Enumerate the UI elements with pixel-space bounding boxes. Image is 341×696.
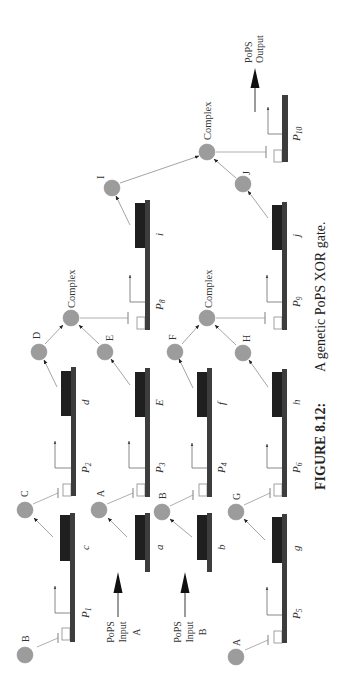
- transcription-start-arrow-icon: [267, 587, 282, 615]
- input-arrow-head-icon: [114, 572, 123, 593]
- gene-block-a: [135, 515, 145, 560]
- promoter-box: [137, 317, 145, 329]
- binding-arrow-icon: [120, 156, 199, 183]
- dna-strand: [282, 514, 287, 643]
- gene-label-d: d: [79, 399, 91, 405]
- repression-line: [37, 638, 58, 647]
- protein-label-e: E: [104, 335, 115, 341]
- input-a-label-line3: A: [131, 628, 142, 636]
- promoter-label-p10: P10: [290, 127, 304, 142]
- construct-a: a A: [91, 489, 165, 572]
- transcription-start-arrow-icon: [267, 444, 282, 468]
- xor-gate-figure: B P1 c C P2 d D: [0, 0, 341, 696]
- dna-strand: [207, 368, 212, 497]
- repression-line: [107, 493, 133, 504]
- protein-label-c: C: [19, 490, 30, 497]
- pops-output: PoPS Output: [243, 35, 265, 112]
- protein-label-i: I: [95, 176, 106, 179]
- gene-block-e: [135, 372, 145, 417]
- promoter-box: [199, 484, 207, 496]
- protein-label-g: G: [231, 493, 242, 500]
- complex-label: Complex: [66, 269, 77, 308]
- gene-label-h: h: [290, 399, 302, 405]
- gene-label-f: f: [215, 400, 227, 405]
- protein-label-a: A: [231, 638, 242, 646]
- gene-block-b: [197, 515, 207, 560]
- construct-p6: P6 h H: [235, 335, 304, 505]
- construct-p10: P10: [268, 95, 304, 162]
- protein-j: [235, 176, 251, 192]
- promoter-box: [274, 150, 282, 162]
- promoter-subscript: 3: [158, 462, 167, 467]
- protein-label-h: H: [241, 335, 252, 342]
- gene-block-d: [61, 371, 71, 416]
- protein-d: [31, 344, 47, 360]
- complex-circle: [199, 144, 215, 160]
- expression-arrow-icon: [108, 518, 127, 537]
- protein-i: [104, 180, 120, 196]
- dna-strand: [71, 367, 76, 496]
- transcription-start-arrow-icon: [55, 441, 71, 468]
- input-a-label-line1: PoPS: [105, 621, 116, 643]
- complex-de: Complex: [45, 269, 128, 344]
- gene-label-j: j: [290, 234, 302, 239]
- construct-p8: P8 i I: [95, 176, 167, 330]
- input-b-label-line1: PoPS: [172, 621, 183, 643]
- promoter-label-p2: P2: [79, 462, 93, 474]
- protein-label-a: A: [95, 489, 106, 497]
- gene-block-g: [272, 517, 282, 563]
- promoter-label-p4: P4: [215, 462, 229, 474]
- promoter-box: [137, 484, 145, 496]
- complex-ij: Complex: [120, 101, 266, 183]
- dna-strand: [282, 369, 287, 497]
- transcription-start-arrow-icon: [267, 275, 282, 302]
- promoter-subscript: 6: [295, 462, 304, 466]
- caption-text: A genetic PoPS XOR gate.: [313, 222, 328, 373]
- expression-arrow-icon: [179, 359, 193, 388]
- gene-block-h: [272, 372, 282, 417]
- construct-p2: P2 d D: [31, 332, 93, 504]
- figure-caption: FIGURE 8.12: A genetic PoPS XOR gate.: [313, 222, 328, 491]
- gene-label-a: a: [153, 544, 165, 550]
- promoter-subscript: 2: [84, 462, 93, 466]
- gene-label-i: i: [153, 233, 165, 236]
- promoter-label-p3: P3: [153, 462, 167, 474]
- binding-arrow-icon: [45, 325, 63, 344]
- promoter-label-p9: P9: [290, 296, 304, 308]
- gene-block-c: [60, 515, 70, 561]
- promoter-label-p5: P5: [290, 608, 304, 620]
- dna-strand: [282, 95, 288, 162]
- gene-label-g: g: [290, 545, 302, 551]
- construct-p3: P3 E E: [97, 335, 167, 504]
- figure-content: B P1 c C P2 d D: [17, 35, 328, 665]
- promoter-box: [63, 484, 71, 496]
- promoter-label-p8: P8: [153, 299, 167, 311]
- dna-strand: [145, 368, 150, 497]
- construct-p1: B P1 c C: [17, 490, 93, 663]
- dna-strand: [282, 202, 287, 330]
- protein-label-f: F: [167, 334, 178, 340]
- construct-b: b B: [154, 492, 227, 572]
- dna-strand: [207, 513, 212, 572]
- expression-arrow-icon: [111, 359, 130, 385]
- protein-label-j: J: [241, 171, 252, 175]
- promoter-box: [274, 317, 282, 329]
- promoter-box: [274, 484, 282, 496]
- protein-h: [235, 345, 251, 361]
- gene-block-j: [272, 205, 282, 250]
- complex-circle: [199, 310, 215, 326]
- complex-label: Complex: [203, 269, 214, 308]
- promoter-subscript: 1: [84, 608, 93, 612]
- promoter-subscript: 4: [220, 462, 229, 466]
- gene-block-i: [135, 203, 145, 248]
- binding-arrow-icon: [215, 325, 236, 345]
- pops-input-a: PoPS Input A: [105, 572, 142, 643]
- promoter-subscript: 8: [158, 299, 167, 303]
- repression-line: [170, 495, 193, 506]
- promoter-label-p6: P6: [290, 462, 304, 474]
- repression-line: [244, 493, 270, 505]
- promoter-subscript: 10: [295, 127, 304, 135]
- binding-arrow-icon: [79, 325, 99, 344]
- repression-line: [245, 640, 268, 650]
- dna-strand: [145, 513, 150, 572]
